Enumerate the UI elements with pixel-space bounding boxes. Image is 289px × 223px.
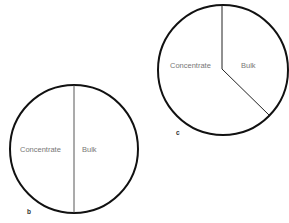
pie-c-concentrate-label: Concentrate — [170, 61, 211, 70]
pie-c-bulk-label: Bulk — [241, 61, 256, 70]
pie-b-concentrate-label: Concentrate — [20, 145, 61, 154]
panel-label-c: c — [176, 129, 180, 136]
pie-charts-figure: Concentrate Bulk b Concentrate Bulk c — [0, 0, 289, 223]
pie-chart-c: Concentrate Bulk c — [158, 5, 288, 136]
panel-label-b: b — [27, 208, 31, 215]
pie-chart-b: Concentrate Bulk b — [10, 85, 138, 215]
pie-b-bulk-label: Bulk — [82, 145, 97, 154]
